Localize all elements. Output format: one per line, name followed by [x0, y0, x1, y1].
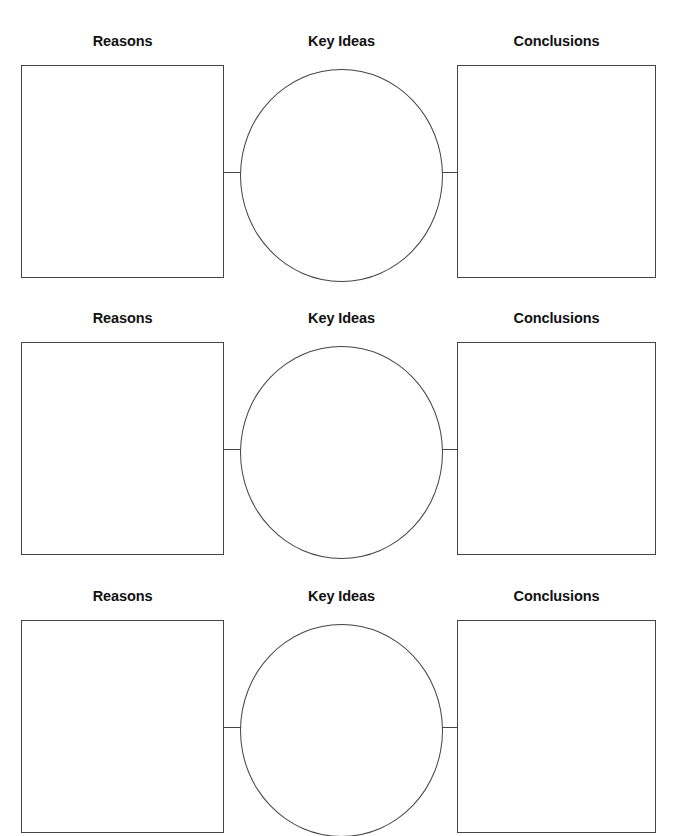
- key-ideas-circle[interactable]: [240, 346, 443, 559]
- label-reasons: Reasons: [21, 310, 224, 327]
- conclusions-box[interactable]: [457, 342, 656, 555]
- reasons-box[interactable]: [21, 342, 224, 555]
- connector-reasons-to-keyideas: [223, 449, 241, 450]
- label-key-ideas: Key Ideas: [240, 310, 443, 327]
- label-key-ideas: Key Ideas: [240, 588, 443, 605]
- worksheet-page: Reasons Key Ideas Conclusions Reasons Ke…: [0, 0, 677, 836]
- label-conclusions: Conclusions: [457, 33, 656, 50]
- label-reasons: Reasons: [21, 33, 224, 50]
- label-conclusions: Conclusions: [457, 310, 656, 327]
- label-reasons: Reasons: [21, 588, 224, 605]
- label-conclusions: Conclusions: [457, 588, 656, 605]
- connector-keyideas-to-conclusions: [442, 727, 458, 728]
- conclusions-box[interactable]: [457, 620, 656, 833]
- connector-keyideas-to-conclusions: [442, 172, 458, 173]
- connector-keyideas-to-conclusions: [442, 449, 458, 450]
- cropped-header-text: [0, 0, 677, 1]
- connector-reasons-to-keyideas: [223, 727, 241, 728]
- key-ideas-circle[interactable]: [240, 624, 443, 836]
- key-ideas-circle[interactable]: [240, 69, 443, 282]
- label-key-ideas: Key Ideas: [240, 33, 443, 50]
- conclusions-box[interactable]: [457, 65, 656, 278]
- connector-reasons-to-keyideas: [223, 172, 241, 173]
- reasons-box[interactable]: [21, 65, 224, 278]
- reasons-box[interactable]: [21, 620, 224, 833]
